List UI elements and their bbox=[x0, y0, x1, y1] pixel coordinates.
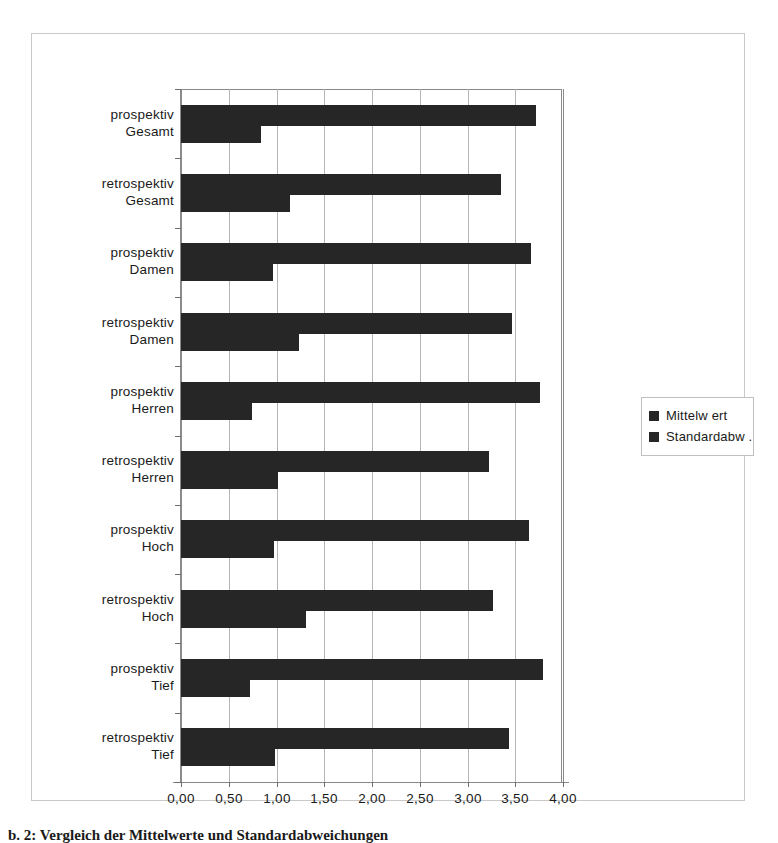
bar-standardabweichung bbox=[181, 611, 306, 628]
chart-legend: Mittelw ertStandardabw . bbox=[641, 397, 754, 456]
y-axis-tick bbox=[175, 436, 181, 437]
legend-swatch-icon bbox=[649, 432, 659, 442]
category-label: retrospektivTief bbox=[56, 729, 174, 763]
legend-item: Standardabw . bbox=[649, 426, 747, 447]
category-label-line: Herren bbox=[56, 469, 174, 486]
bar-standardabweichung bbox=[181, 126, 261, 143]
bar-mittelwert bbox=[181, 174, 501, 195]
y-axis-tick bbox=[175, 297, 181, 298]
category-label-line: retrospektiv bbox=[56, 314, 174, 331]
y-axis-tick bbox=[175, 89, 181, 90]
category-label-line: retrospektiv bbox=[56, 591, 174, 608]
category-label-line: Gesamt bbox=[56, 192, 174, 209]
category-label-line: Damen bbox=[56, 261, 174, 278]
legend-swatch-icon bbox=[649, 411, 659, 421]
category-label: retrospektivDamen bbox=[56, 314, 174, 348]
y-axis-tick bbox=[175, 158, 181, 159]
bar-mittelwert bbox=[181, 451, 489, 472]
y-axis-tick bbox=[175, 713, 181, 714]
y-axis-tick bbox=[175, 643, 181, 644]
x-axis-tick bbox=[324, 782, 325, 787]
bar-standardabweichung bbox=[181, 264, 273, 281]
bar-mittelwert bbox=[181, 243, 531, 264]
bar-standardabweichung bbox=[181, 541, 274, 558]
bar-mittelwert bbox=[181, 382, 540, 403]
x-axis-tick-label: 4,00 bbox=[533, 791, 593, 806]
category-label-line: retrospektiv bbox=[56, 452, 174, 469]
category-label-line: Hoch bbox=[56, 538, 174, 555]
legend-label: Mittelw ert bbox=[666, 408, 727, 423]
y-axis-tick bbox=[175, 574, 181, 575]
figure-caption-text: b. 2: Vergleich der Mittelwerte und Stan… bbox=[8, 829, 770, 843]
gridline bbox=[563, 89, 564, 782]
category-axis-labels: prospektivGesamtretrospektivGesamtprospe… bbox=[50, 34, 174, 802]
x-axis-tick bbox=[468, 782, 469, 787]
y-axis-tick bbox=[175, 366, 181, 367]
x-axis-line bbox=[173, 782, 569, 783]
x-axis-tick bbox=[563, 782, 564, 787]
legend-label: Standardabw . bbox=[666, 429, 752, 444]
legend-item: Mittelw ert bbox=[649, 405, 747, 426]
category-label: prospektivHoch bbox=[56, 521, 174, 555]
bar-standardabweichung bbox=[181, 472, 278, 489]
bar-mittelwert bbox=[181, 313, 512, 334]
category-label-line: prospektiv bbox=[56, 106, 174, 123]
category-label: prospektivTief bbox=[56, 660, 174, 694]
x-axis-tick bbox=[372, 782, 373, 787]
category-label-line: retrospektiv bbox=[56, 175, 174, 192]
category-label-line: prospektiv bbox=[56, 660, 174, 677]
category-label: retrospektivHoch bbox=[56, 591, 174, 625]
bar-mittelwert bbox=[181, 520, 529, 541]
x-axis-tick bbox=[181, 782, 182, 787]
category-label-line: retrospektiv bbox=[56, 729, 174, 746]
category-label-line: Tief bbox=[56, 746, 174, 763]
bar-mittelwert bbox=[181, 590, 493, 611]
category-label: prospektivHerren bbox=[56, 383, 174, 417]
x-axis-tick bbox=[277, 782, 278, 787]
category-label: prospektivDamen bbox=[56, 244, 174, 278]
category-label-line: Gesamt bbox=[56, 123, 174, 140]
y-axis-tick bbox=[175, 505, 181, 506]
category-label: retrospektivHerren bbox=[56, 452, 174, 486]
category-label: retrospektivGesamt bbox=[56, 175, 174, 209]
category-label-line: Damen bbox=[56, 331, 174, 348]
bar-standardabweichung bbox=[181, 334, 299, 351]
y-axis-tick bbox=[175, 228, 181, 229]
bar-mittelwert bbox=[181, 105, 536, 126]
category-label-line: prospektiv bbox=[56, 244, 174, 261]
category-label-line: Herren bbox=[56, 400, 174, 417]
bar-standardabweichung bbox=[181, 195, 290, 212]
x-axis-tick bbox=[515, 782, 516, 787]
bar-standardabweichung bbox=[181, 403, 252, 420]
bar-mittelwert bbox=[181, 659, 543, 680]
category-label-line: prospektiv bbox=[56, 383, 174, 400]
chart-frame: prospektivGesamtretrospektivGesamtprospe… bbox=[31, 33, 745, 801]
bar-standardabweichung bbox=[181, 680, 250, 697]
x-axis-tick bbox=[229, 782, 230, 787]
bar-mittelwert bbox=[181, 728, 509, 749]
x-axis-tick bbox=[420, 782, 421, 787]
category-label: prospektivGesamt bbox=[56, 106, 174, 140]
bar-standardabweichung bbox=[181, 749, 275, 766]
y-axis-tick bbox=[175, 782, 181, 783]
category-label-line: Hoch bbox=[56, 608, 174, 625]
category-label-line: Tief bbox=[56, 677, 174, 694]
category-label-line: prospektiv bbox=[56, 521, 174, 538]
figure-caption: b. 2: Vergleich der Mittelwerte und Stan… bbox=[8, 829, 770, 843]
